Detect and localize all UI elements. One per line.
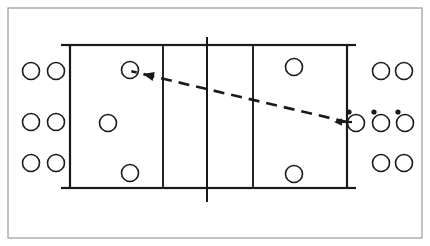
ball-dot-server-1 [346, 109, 351, 114]
ball-dot-server-2 [371, 109, 376, 114]
ball-dot-server-3 [395, 109, 400, 114]
diagram-canvas [0, 0, 430, 246]
volleyball-court-diagram [0, 0, 430, 246]
